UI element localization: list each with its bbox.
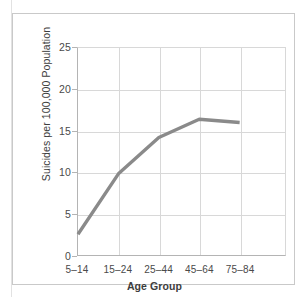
y-tick-label-25: 25 [31,41,71,53]
y-tick-label-15: 15 [31,125,71,137]
data-series-line [78,48,285,255]
y-tick-label-20: 20 [31,83,71,95]
y-tick-label-10: 10 [31,166,71,178]
y-tick-label-5: 5 [31,208,71,220]
y-tick-label-0: 0 [31,250,71,262]
figure-frame: Suicides per 100,000 Population 0 5 10 1… [12,13,295,285]
y-axis-ticks: 0 5 10 15 20 25 [27,47,71,256]
x-tick-label-4: 75–84 [213,264,267,275]
x-axis-title: Age Group [13,280,296,292]
plot-area [77,47,286,256]
y-tick-mark-0 [72,256,77,257]
